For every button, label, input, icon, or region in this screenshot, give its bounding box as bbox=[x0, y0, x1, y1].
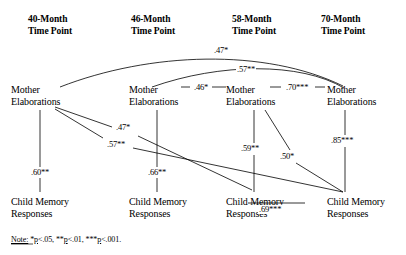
node-mother-elaborations-70-month: Mother Elaborations bbox=[327, 84, 376, 107]
column-header-46-month: 46-Month Time Point bbox=[131, 14, 175, 37]
node-mother-elaborations-40-month: Mother Elaborations bbox=[11, 84, 60, 107]
coefficient-me40-me46: .46* bbox=[193, 83, 209, 92]
path-diagram-figure: 40-Month Time Point 46-Month Time Point … bbox=[0, 0, 406, 255]
coefficient-me40-me70-arc: .47* bbox=[213, 46, 229, 55]
significance-note: Note: *p<.05, **p<.01, ***p<.001. bbox=[11, 235, 121, 245]
column-header-40-month: 40-Month Time Point bbox=[28, 14, 72, 37]
coefficient-me40-cm58: .47* bbox=[115, 123, 131, 132]
node-child-memory-responses-40-month: Child Memory Responses bbox=[11, 196, 69, 219]
node-mother-elaborations-58-month: Mother Elaborations bbox=[226, 84, 275, 107]
coefficient-me40-cm40: .60** bbox=[30, 168, 50, 177]
column-header-70-month: 70-Month Time Point bbox=[321, 14, 365, 37]
note-body: *p<.05, **p<.01, ***p<.001. bbox=[30, 235, 121, 244]
coefficient-me40-cm70: .57** bbox=[106, 140, 126, 149]
coefficient-me58-cm70: .50* bbox=[279, 152, 295, 161]
coefficient-me46-me70-arc: .57** bbox=[236, 65, 256, 74]
note-label: Note: bbox=[11, 235, 28, 244]
node-child-memory-responses-46-month: Child Memory Responses bbox=[129, 196, 187, 219]
path-me40-cm58-seg1 bbox=[55, 107, 112, 127]
coefficient-me58-cm58: .59** bbox=[240, 144, 260, 153]
coefficient-me70-cm70: .85*** bbox=[330, 136, 354, 145]
column-header-58-month: 58-Month Time Point bbox=[232, 14, 276, 37]
path-me40-cm58-seg2 bbox=[138, 136, 252, 190]
node-mother-elaborations-46-month: Mother Elaborations bbox=[129, 84, 178, 107]
coefficient-me46-cm46: .66** bbox=[147, 168, 167, 177]
node-child-memory-responses-70-month: Child Memory Responses bbox=[327, 196, 385, 219]
coefficient-cm58-cm70: .69*** bbox=[258, 205, 282, 214]
path-me58-cm70-seg1 bbox=[265, 110, 290, 150]
path-me40-cm70-seg1 bbox=[55, 109, 103, 138]
path-me58-cm70-seg2 bbox=[296, 163, 343, 192]
coefficient-me58-me70: .70*** bbox=[285, 83, 309, 92]
